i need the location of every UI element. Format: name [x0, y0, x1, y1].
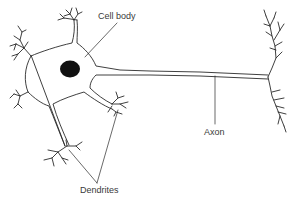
cell-body-leader-line — [85, 23, 117, 57]
dendrite-bottom — [44, 140, 82, 166]
neuron-diagram: Cell body Axon Dendrites — [0, 0, 292, 202]
axon-terminal-upper — [264, 10, 284, 77]
dendrite-upper-left — [10, 26, 31, 60]
neuron-drawing — [0, 0, 292, 202]
nucleus — [60, 61, 80, 78]
dendrites-leader-line-left — [69, 150, 97, 183]
dendrites-label: Dendrites — [80, 185, 119, 195]
cell-body-label: Cell body — [98, 11, 136, 21]
dendrites-leader-line-right — [97, 110, 118, 183]
axon-label: Axon — [204, 127, 225, 137]
dendrite-top — [58, 8, 82, 20]
dendrite-left-lower — [10, 90, 28, 108]
cell-body-outline — [25, 20, 268, 146]
dendrite-right-lower — [108, 92, 128, 116]
axon-terminal-lower — [268, 77, 286, 132]
